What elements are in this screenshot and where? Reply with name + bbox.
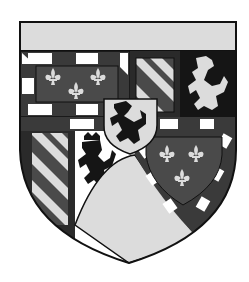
chief xyxy=(20,22,236,51)
quarter-lion-light xyxy=(180,51,236,117)
quarter-bendy-lower xyxy=(20,131,75,271)
shield xyxy=(0,0,249,282)
coat-of-arms xyxy=(0,0,249,282)
